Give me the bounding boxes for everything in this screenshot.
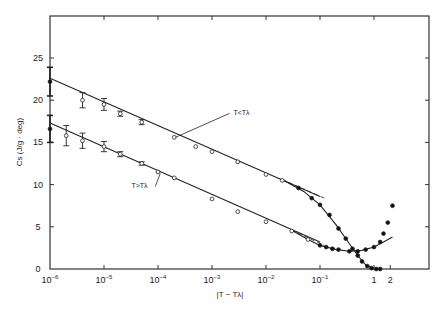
- x-tick-label: 10−4: [150, 274, 168, 285]
- data-point: [372, 245, 376, 249]
- x-axis-label: |T − Tλ|: [217, 290, 244, 299]
- data-point: [310, 196, 314, 200]
- data-point: [290, 229, 294, 233]
- data-point: [264, 173, 268, 177]
- data-point: [370, 266, 374, 270]
- x-tick-label: 2: [388, 275, 393, 285]
- x-tick-label: 10−1: [312, 274, 330, 285]
- x-tick-label: 10−5: [96, 274, 114, 285]
- fit-line: [50, 78, 320, 196]
- annotation-label: T>Tλ: [131, 182, 148, 189]
- x-tick-label: 10−3: [204, 274, 222, 285]
- data-point: [194, 145, 198, 149]
- data-point: [337, 227, 341, 231]
- data-point: [48, 127, 52, 131]
- data-point: [210, 150, 214, 154]
- x-tick-label: 10−2: [258, 274, 276, 285]
- y-tick-label: 0: [35, 264, 40, 274]
- data-point: [102, 103, 106, 107]
- annotation-label: T<Tλ: [233, 109, 250, 116]
- annotation-leader: [175, 113, 229, 137]
- data-point: [140, 120, 144, 124]
- data-point: [102, 145, 106, 149]
- plot-frame: [50, 16, 429, 269]
- data-point: [118, 112, 122, 116]
- series-below-lambda: [47, 67, 382, 271]
- data-point: [324, 245, 328, 249]
- data-point: [382, 232, 386, 236]
- data-point: [236, 160, 240, 164]
- data-point: [318, 203, 322, 207]
- data-point: [360, 260, 364, 264]
- y-axis-label: Cs (J/g · deg): [15, 117, 24, 166]
- x-tick-label: 10−6: [42, 274, 60, 285]
- y-tick-label: 20: [33, 95, 43, 105]
- data-point: [356, 254, 360, 258]
- data-point: [386, 221, 390, 225]
- fit-curve: [282, 180, 380, 270]
- data-point: [156, 170, 160, 174]
- data-point: [48, 80, 52, 84]
- data-point: [391, 204, 395, 208]
- data-point: [236, 210, 240, 214]
- y-tick-label: 10: [33, 180, 43, 190]
- data-point: [172, 176, 176, 180]
- data-point: [118, 152, 122, 156]
- data-point: [264, 220, 268, 224]
- chart: 0510152025 10−610−510−410−310−210−112 T<…: [0, 0, 444, 316]
- annotation-leader: [155, 174, 160, 187]
- y-tick-label: 5: [35, 222, 40, 232]
- data-point: [318, 243, 322, 247]
- data-point: [64, 134, 68, 138]
- data-point: [306, 238, 310, 242]
- data-point: [374, 267, 378, 271]
- data-point: [378, 267, 382, 271]
- y-axis: 0510152025: [33, 53, 429, 274]
- y-tick-label: 25: [33, 53, 43, 63]
- data-point: [364, 248, 368, 252]
- data-point: [297, 186, 301, 190]
- data-point: [337, 248, 341, 252]
- data-point: [280, 178, 284, 182]
- x-axis: 10−610−510−410−310−210−112: [42, 16, 393, 285]
- x-tick-label: 1: [371, 275, 376, 285]
- data-point: [81, 98, 85, 102]
- series-above-lambda: [47, 115, 394, 253]
- data-point: [210, 197, 214, 201]
- data-point: [328, 213, 332, 217]
- data-point: [140, 162, 144, 166]
- data-point: [81, 139, 85, 143]
- data-point: [347, 249, 351, 253]
- data-point: [344, 237, 348, 241]
- data-point: [365, 264, 369, 268]
- plot-area: [47, 67, 394, 271]
- data-point: [378, 240, 382, 244]
- y-tick-label: 15: [33, 137, 43, 147]
- data-point: [331, 247, 335, 251]
- data-point: [356, 249, 360, 253]
- fit-line: [50, 123, 320, 242]
